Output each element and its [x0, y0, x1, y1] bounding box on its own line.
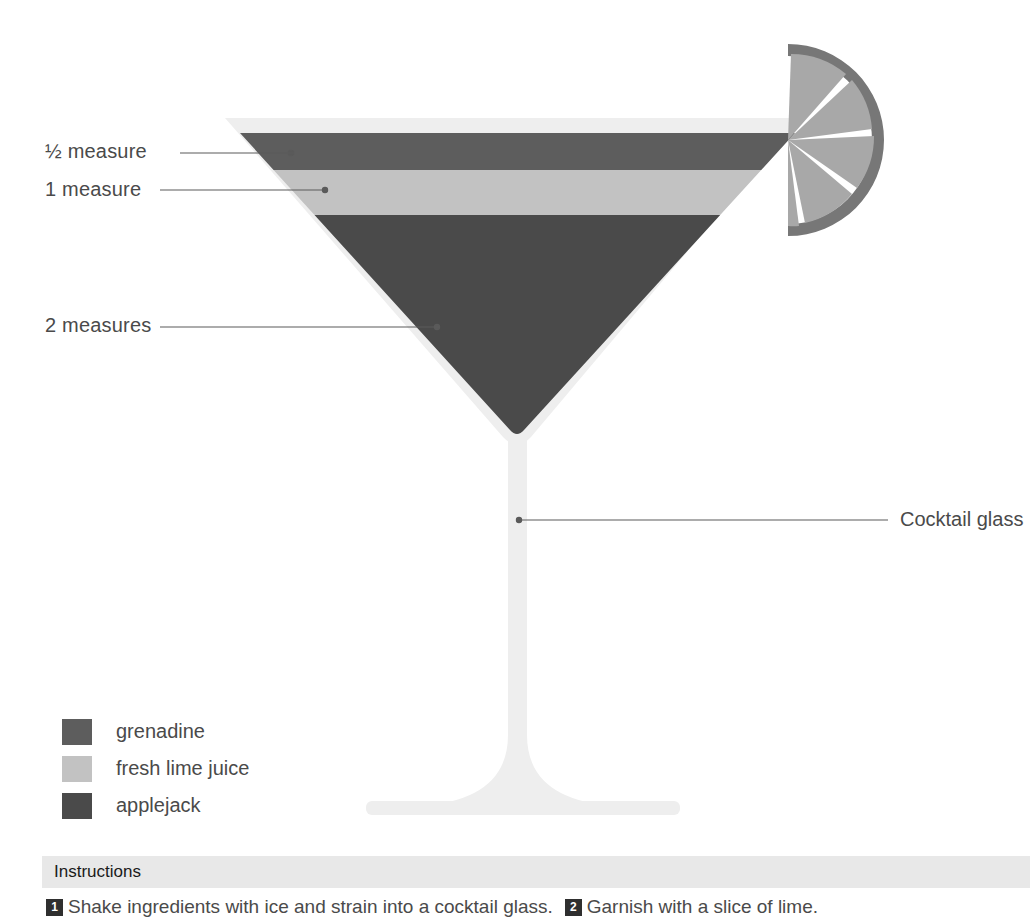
glass-foot [366, 801, 680, 815]
leader-dot-cocktail-glass [516, 517, 521, 522]
instruction-step-2: 2Garnish with a slice of lime. [565, 896, 830, 917]
leader-dot-half-measure [288, 150, 293, 155]
step-number-1: 1 [46, 899, 63, 916]
step-text-2: Garnish with a slice of lime. [587, 896, 818, 917]
legend-item-applejack: applejack [62, 787, 249, 824]
measure-label-fresh-lime-juice: 1 measure [45, 178, 141, 201]
legend-item-grenadine: grenadine [62, 713, 249, 750]
legend-swatch-fresh-lime-juice [62, 756, 92, 782]
ingredient-legend: grenadine fresh lime juice applejack [62, 713, 249, 824]
instructions-body: 1Shake ingredients with ice and strain i… [46, 896, 1026, 918]
layer-fresh-lime-juice [200, 170, 840, 215]
legend-label-fresh-lime-juice: fresh lime juice [116, 757, 249, 780]
legend-item-fresh-lime-juice: fresh lime juice [62, 750, 249, 787]
instruction-step-1: 1Shake ingredients with ice and strain i… [46, 896, 565, 917]
measure-label-applejack: 2 measures [45, 314, 152, 337]
step-number-2: 2 [565, 899, 582, 916]
legend-label-grenadine: grenadine [116, 720, 205, 743]
legend-swatch-grenadine [62, 719, 92, 745]
glass-stem-flare [420, 735, 615, 806]
liquid-layers [200, 133, 840, 455]
legend-swatch-applejack [62, 793, 92, 819]
instructions-title: Instructions [54, 862, 141, 882]
instructions-header-bar: Instructions [42, 856, 1030, 888]
cocktail-glass-label: Cocktail glass [900, 508, 1023, 531]
leader-dot-one-measure [322, 187, 327, 192]
cocktail-recipe-illustration: ½ measure 1 measure 2 measures Cocktail … [0, 0, 1030, 924]
leader-dot-two-measures [434, 324, 439, 329]
layer-grenadine [200, 133, 840, 170]
measure-label-grenadine: ½ measure [45, 140, 147, 163]
layer-applejack [200, 215, 840, 455]
step-text-1: Shake ingredients with ice and strain in… [68, 896, 553, 917]
legend-label-applejack: applejack [116, 794, 201, 817]
